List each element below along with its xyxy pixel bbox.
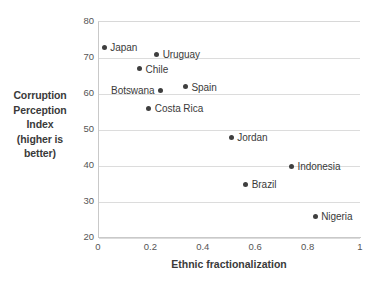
data-point-label: Botswana	[111, 85, 155, 96]
y-axis-title-line-3: (higher is	[2, 132, 78, 147]
data-point-label: Nigeria	[321, 211, 352, 222]
data-point-marker[interactable]	[102, 45, 107, 50]
x-axis-title: Ethnic fractionalization	[98, 258, 360, 270]
data-point-label: Spain	[191, 81, 216, 92]
x-tick-label: 0.4	[183, 241, 223, 252]
y-tick-label: 50	[72, 124, 94, 134]
x-tick-label: 0.8	[288, 241, 328, 252]
x-tick-label: 0	[78, 241, 118, 252]
plot-area: JapanUruguayChileBotswanaSpainCosta Rica…	[98, 21, 360, 237]
x-axis-line	[98, 237, 361, 238]
y-axis-title-line-1: Perception	[2, 103, 78, 118]
x-tick-label: 1	[340, 241, 380, 252]
y-tick-label: 30	[72, 196, 94, 206]
data-point-label: Brazil	[252, 179, 277, 190]
y-tick-label: 80	[72, 16, 94, 26]
gridline	[99, 238, 360, 239]
gridline	[99, 130, 360, 131]
data-point-marker[interactable]	[154, 52, 159, 57]
scatter-chart: CorruptionPerceptionIndex(higher isbette…	[0, 0, 381, 290]
y-axis-title-line-0: Corruption	[2, 88, 78, 103]
data-point-marker[interactable]	[158, 88, 163, 93]
gridlines	[99, 22, 360, 237]
gridline	[99, 58, 360, 59]
data-point-label: Jordan	[237, 132, 267, 143]
data-point-label: Chile	[146, 63, 169, 74]
x-tick-label: 0.2	[130, 241, 170, 252]
data-point-label: Indonesia	[298, 161, 341, 172]
data-point-label: Uruguay	[163, 49, 200, 60]
data-point-marker[interactable]	[289, 164, 294, 169]
data-point-marker[interactable]	[229, 135, 234, 140]
data-point-label: Japan	[110, 42, 137, 53]
gridline	[99, 202, 360, 203]
data-point-marker[interactable]	[243, 182, 248, 187]
y-tick-label: 40	[72, 160, 94, 170]
x-tick-label: 0.6	[235, 241, 275, 252]
data-point-label: Costa Rica	[155, 103, 203, 114]
y-axis-title: CorruptionPerceptionIndex(higher isbette…	[2, 88, 78, 161]
y-axis-title-line-2: Index	[2, 117, 78, 132]
y-tick-label: 60	[72, 88, 94, 98]
y-tick-label: 70	[72, 52, 94, 62]
y-axis-title-line-4: better)	[2, 146, 78, 161]
x-axis-tick-labels: 00.20.40.60.81	[0, 241, 381, 255]
data-point-marker[interactable]	[313, 214, 318, 219]
